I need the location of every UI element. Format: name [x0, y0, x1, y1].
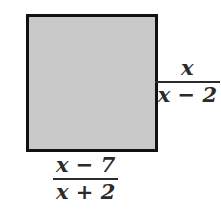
height-numerator: x [155, 57, 220, 79]
height-denominator: x − 2 [155, 84, 220, 106]
shaded-square [26, 14, 158, 152]
geometry-figure: x x − 2 x − 7 x + 2 [0, 0, 221, 211]
width-numerator: x − 7 [53, 154, 118, 176]
side-label-height: x x − 2 [155, 57, 220, 106]
width-denominator: x + 2 [53, 181, 118, 203]
side-label-width: x − 7 x + 2 [53, 154, 118, 203]
